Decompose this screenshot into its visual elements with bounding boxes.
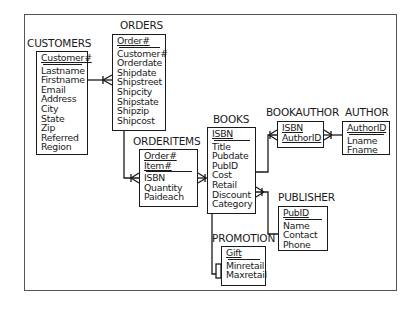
attribute: Paideach <box>144 192 194 202</box>
pk-attribute: PubID <box>283 208 324 218</box>
entity-publisher[interactable]: PubID Name Contact Phone <box>278 206 328 251</box>
entity-promotion[interactable]: Gift Minretail Maxretail <box>221 246 266 286</box>
entity-author[interactable]: AuthorID Lname Fname <box>342 121 390 155</box>
pk-attribute: Item# <box>144 161 194 171</box>
pk-attribute: Order# <box>117 36 162 46</box>
entity-orderitems[interactable]: Order# Item# ISBN Quantity Paideach <box>139 149 198 207</box>
entity-bookauthor[interactable]: ISBN AuthorID <box>277 121 324 148</box>
entity-title-orderitems: ORDERITEMS <box>133 136 200 147</box>
entity-customers[interactable]: Customer# Lastname Firstname Email Addre… <box>36 51 88 155</box>
attribute: Maxretail <box>226 270 262 280</box>
entity-title-promotion: PROMOTION <box>212 233 275 244</box>
entity-title-customers: CUSTOMERS <box>27 38 91 49</box>
pk-attribute: AuthorID <box>282 133 320 143</box>
entity-title-orders: ORDERS <box>120 20 163 31</box>
pk-attribute: Gift <box>226 248 262 258</box>
entity-orders[interactable]: Order# Customer# Orderdate Shipdate Ship… <box>112 34 166 131</box>
attribute: Phone <box>283 240 324 250</box>
entity-title-bookauthor: BOOKAUTHOR <box>266 107 339 118</box>
entity-title-publisher: PUBLISHER <box>278 192 335 203</box>
attribute: Region <box>41 142 84 152</box>
pk-attribute: AuthorID <box>347 123 386 133</box>
entity-title-author: AUTHOR <box>345 107 389 118</box>
pk-attribute: ISBN <box>212 129 252 139</box>
entity-books[interactable]: ISBN Title Pubdate PubID Cost Retail Dis… <box>207 127 256 214</box>
pk-attribute: Customer# <box>41 53 84 63</box>
attribute: Category <box>212 199 252 209</box>
entity-title-books: BOOKS <box>213 114 249 125</box>
attribute: Fname <box>347 145 386 155</box>
attribute: Shipcost <box>117 116 162 126</box>
